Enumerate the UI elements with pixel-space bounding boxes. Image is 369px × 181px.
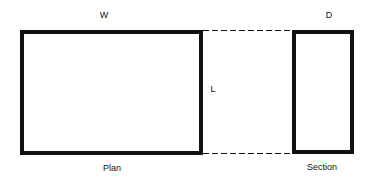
section-rectangle	[294, 32, 352, 152]
plan-rectangle	[22, 32, 201, 153]
length-label: L	[210, 84, 215, 94]
section-caption: Section	[307, 162, 337, 172]
diagram-canvas	[0, 0, 369, 181]
width-label: W	[100, 10, 109, 20]
plan-caption: Plan	[103, 163, 121, 173]
depth-label: D	[326, 10, 333, 20]
